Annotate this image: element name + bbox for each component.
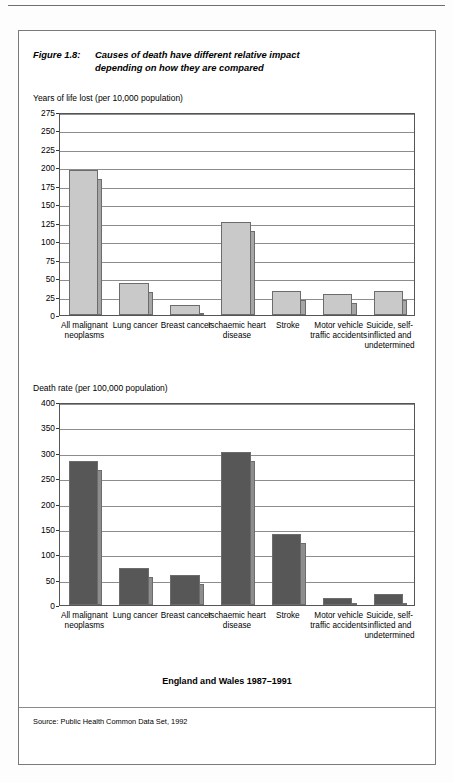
y-axis-tick-mark: [56, 242, 59, 243]
figure-title: Figure 1.8: Causes of death have differe…: [33, 49, 425, 74]
chart-death-rate: 400350300250200150100500All malignant ne…: [19, 403, 437, 653]
chart-years-of-life-lost: 2752502252001751501251007550250All malig…: [19, 113, 437, 363]
bar-shadow: [200, 313, 204, 315]
bar: [69, 170, 103, 315]
gridline: [60, 404, 414, 405]
source-note: Source: Public Health Common Data Set, 1…: [33, 717, 187, 726]
figure-title-line-2: depending on how they are compared: [95, 62, 264, 73]
bar-face: [374, 594, 403, 605]
bar-face: [272, 291, 301, 315]
y-axis-tick-mark: [56, 606, 59, 607]
bar-shadow: [352, 303, 356, 315]
y-axis-tick-mark: [56, 479, 59, 480]
bar: [170, 305, 204, 315]
gridline: [60, 114, 414, 115]
y-axis-tick-label: 400: [21, 399, 55, 407]
bar-shadow: [200, 584, 204, 605]
figure-number: Figure 1.8:: [33, 49, 95, 74]
figure-container: Figure 1.8: Causes of death have differe…: [18, 30, 436, 765]
y-axis-tick-mark: [56, 581, 59, 582]
bar-face: [170, 575, 199, 605]
bar-shadow: [251, 461, 255, 605]
bar-shadow: [403, 603, 407, 605]
y-axis-tick-label: 0: [21, 602, 55, 610]
y-axis-tick-mark: [56, 224, 59, 225]
y-axis-tick-mark: [56, 113, 59, 114]
figure-title-text: Causes of death have different relative …: [95, 49, 425, 74]
y-axis-tick-mark: [56, 298, 59, 299]
bar-face: [69, 170, 98, 315]
y-axis-tick-label: 50: [21, 275, 55, 283]
bar-face: [323, 294, 352, 315]
bar-shadow: [251, 231, 255, 315]
bar: [272, 291, 306, 315]
gridline: [60, 188, 414, 189]
bar: [221, 452, 255, 605]
bar-shadow: [98, 470, 102, 605]
y-axis-tick-label: 300: [21, 450, 55, 458]
bar-face: [119, 568, 148, 605]
bar-face: [221, 222, 250, 315]
y-axis-tick-label: 100: [21, 238, 55, 246]
bar-face: [69, 461, 98, 605]
bar-face: [272, 534, 301, 605]
y-axis-tick-mark: [56, 131, 59, 132]
y-axis-tick-mark: [56, 454, 59, 455]
bar-face: [221, 452, 250, 605]
source-divider: [19, 707, 435, 708]
y-axis-tick-mark: [56, 279, 59, 280]
y-axis-tick-mark: [56, 261, 59, 262]
y-axis-tick-mark: [56, 403, 59, 404]
figure-title-line-1: Causes of death have different relative …: [95, 49, 300, 60]
gridline: [60, 151, 414, 152]
y-axis-tick-label: 100: [21, 551, 55, 559]
page-sheet: Figure 1.8: Causes of death have differe…: [0, 0, 453, 783]
bar-shadow: [149, 577, 153, 605]
y-axis-tick-label: 150: [21, 526, 55, 534]
bar: [119, 283, 153, 315]
y-axis-tick-label: 250: [21, 127, 55, 135]
chart2-plot-area: [59, 403, 415, 606]
chart1-y-axis-caption: Years of life lost (per 10,000 populatio…: [33, 93, 183, 103]
bar: [374, 594, 408, 605]
bar: [221, 222, 255, 315]
bar: [272, 534, 306, 605]
bar: [323, 598, 357, 605]
y-axis-tick-label: 200: [21, 500, 55, 508]
x-axis-category-label: Suicide, self-inflicted and undetermined: [360, 611, 419, 642]
y-axis-tick-mark: [56, 150, 59, 151]
y-axis-tick-label: 50: [21, 576, 55, 584]
gridline: [60, 169, 414, 170]
bar-shadow: [301, 543, 305, 605]
y-axis-tick-label: 125: [21, 220, 55, 228]
bar: [119, 568, 153, 605]
y-axis-tick-mark: [56, 428, 59, 429]
bar-shadow: [403, 300, 407, 315]
page-top-rule: [8, 5, 445, 6]
y-axis-tick-mark: [56, 205, 59, 206]
y-axis-tick-label: 150: [21, 201, 55, 209]
y-axis-tick-label: 200: [21, 164, 55, 172]
bar-face: [170, 305, 199, 315]
bar: [374, 291, 408, 315]
y-axis-tick-label: 250: [21, 475, 55, 483]
y-axis-tick-mark: [56, 505, 59, 506]
y-axis-tick-label: 75: [21, 256, 55, 264]
x-axis-category-label: Suicide, self-inflicted and undetermined: [360, 321, 419, 352]
bar-shadow: [301, 300, 305, 315]
y-axis-tick-label: 350: [21, 424, 55, 432]
y-axis-tick-mark: [56, 555, 59, 556]
gridline: [60, 429, 414, 430]
bar: [69, 461, 103, 605]
y-axis-tick-mark: [56, 316, 59, 317]
y-axis-tick-label: 275: [21, 109, 55, 117]
chart2-y-axis-caption: Death rate (per 100,000 population): [33, 383, 168, 393]
y-axis-tick-mark: [56, 530, 59, 531]
bar-face: [323, 598, 352, 605]
bar-face: [374, 291, 403, 315]
gridline: [60, 132, 414, 133]
chart1-plot-area: [59, 113, 415, 316]
y-axis-tick-label: 25: [21, 293, 55, 301]
gridline: [60, 206, 414, 207]
y-axis-tick-label: 175: [21, 183, 55, 191]
